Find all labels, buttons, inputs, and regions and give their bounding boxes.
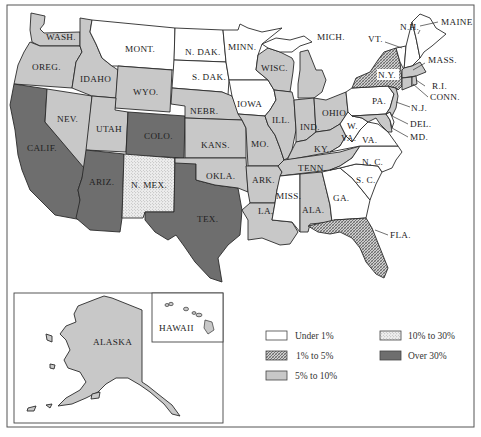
state-r-i[interactable] <box>412 76 417 86</box>
legend-item-1-to-5: 1% to 5% <box>266 351 334 361</box>
legend-swatch <box>266 331 287 340</box>
label-tenn: TENN. <box>298 163 326 173</box>
label-wash: WASH. <box>46 32 76 42</box>
legend-item-5-to-10: 5% to 10% <box>266 371 337 381</box>
label-n-mex: N. MEX. <box>131 180 167 190</box>
label-wyo: WYO. <box>133 87 158 97</box>
label-n-c: N. C. <box>362 157 383 167</box>
label-minn: MINN. <box>228 42 256 52</box>
legend-label: Under 1% <box>295 331 334 341</box>
label-md: MD. <box>410 132 428 142</box>
label-hawaii: HAWAII <box>159 323 194 333</box>
label-n-y: N.Y. <box>378 70 396 80</box>
state-pa[interactable] <box>346 86 394 116</box>
label-kans: KANS. <box>201 140 230 150</box>
label-nebr: NEBR. <box>190 106 218 116</box>
label-conn: CONN. <box>430 92 460 102</box>
legend-swatch <box>380 351 401 360</box>
label-ga: GA. <box>333 193 349 203</box>
label-va: VA. <box>362 135 377 145</box>
state-fla[interactable] <box>308 218 388 278</box>
label-utah: UTAH <box>96 124 122 134</box>
label-nev: NEV. <box>57 114 78 124</box>
label-okla: OKLA. <box>206 171 235 181</box>
label-n-j: N.J. <box>411 103 427 113</box>
label-wisc: WISC. <box>261 63 288 73</box>
svg-text:VA.: VA. <box>341 133 356 143</box>
label-ill: ILL. <box>272 115 290 125</box>
label-colo: COLO. <box>144 131 173 141</box>
label-mass: MASS. <box>428 55 457 65</box>
us-choropleth-map: WASH. OREG. CALIF. NEV. IDAHO MONT. WYO.… <box>0 0 481 437</box>
label-mich: MICH. <box>317 32 345 42</box>
label-alaska: ALASKA <box>93 337 132 347</box>
svg-text:W.: W. <box>347 121 358 131</box>
label-iowa: IOWA <box>237 99 262 109</box>
legend: Under 1% 1% to 5% 5% to 10% 10% to 30% O… <box>266 331 455 381</box>
legend-item-over-30: Over 30% <box>380 351 447 361</box>
alaska-hawaii-inset: ALASKA HAWAII <box>14 293 223 423</box>
legend-label: 10% to 30% <box>408 331 455 341</box>
label-tex: TEX. <box>197 214 218 224</box>
label-n-dak: N. DAK. <box>185 47 221 57</box>
state-conn[interactable] <box>402 77 412 90</box>
label-s-dak: S. DAK. <box>192 72 226 82</box>
label-n-h: N.H. <box>400 22 419 32</box>
label-vt: VT. <box>368 34 383 44</box>
label-s-c: S. C. <box>356 175 376 185</box>
legend-label: 1% to 5% <box>296 351 334 361</box>
legend-label: Over 30% <box>408 351 447 361</box>
legend-swatch <box>266 351 287 360</box>
label-ariz: ARIZ. <box>89 177 114 187</box>
legend-swatch <box>380 331 401 340</box>
label-r-i: R.I. <box>432 81 447 91</box>
label-idaho: IDAHO <box>80 74 111 84</box>
label-mo: MO. <box>251 139 269 149</box>
label-pa: PA. <box>372 96 386 106</box>
legend-item-10-to-30: 10% to 30% <box>380 331 455 341</box>
state-kans[interactable] <box>185 118 246 158</box>
legend-item-under-1: Under 1% <box>266 331 334 341</box>
label-calif: CALIF. <box>27 143 57 153</box>
label-ala: ALA. <box>302 205 324 215</box>
label-del: DEL. <box>410 119 431 129</box>
label-maine: MAINE <box>441 17 473 27</box>
label-oreg: OREG. <box>32 62 61 72</box>
label-la: LA. <box>258 206 273 216</box>
label-mont: MONT. <box>125 44 155 54</box>
label-ark: ARK. <box>252 175 275 185</box>
label-ind: IND. <box>300 122 320 132</box>
state-mich[interactable] <box>298 50 326 98</box>
label-fla: FLA. <box>390 230 411 240</box>
label-ky: KY. <box>314 144 329 154</box>
legend-label: 5% to 10% <box>295 371 337 381</box>
label-ohio: OHIO <box>322 108 346 118</box>
legend-swatch <box>266 371 287 380</box>
hawaii-frame <box>152 293 223 342</box>
alaska-island <box>50 364 55 369</box>
label-miss: MISS. <box>276 191 301 201</box>
